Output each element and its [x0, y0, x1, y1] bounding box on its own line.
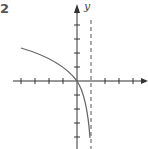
function-graph — [0, 0, 148, 149]
function-curve — [21, 48, 90, 138]
x-axis — [13, 78, 148, 84]
x-axis-arrow-icon — [141, 78, 148, 84]
y-axis-arrow-icon — [74, 4, 80, 13]
y-axis — [74, 4, 80, 149]
